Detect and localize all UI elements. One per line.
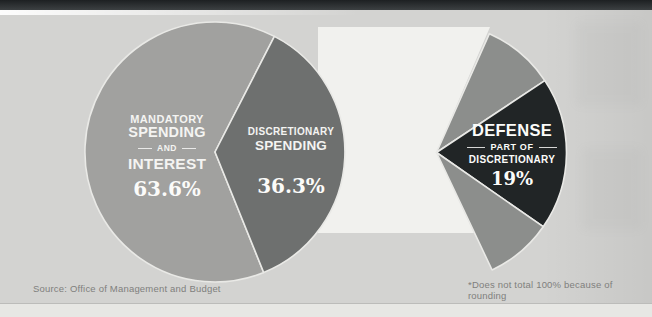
defense-line2: PART OF (442, 142, 582, 152)
defense-label-block: DEFENSE PART OF DISCRETIONARY 19% (442, 121, 582, 188)
mandatory-line3: AND (92, 144, 242, 153)
discretionary-label-block: DISCRETIONARY SPENDING 36.3% (221, 126, 361, 196)
defense-line3: DISCRETIONARY (442, 154, 582, 165)
mandatory-line4: INTEREST (92, 156, 242, 172)
mandatory-percent: 63.6% (92, 179, 242, 199)
rule-line (539, 147, 557, 148)
mandatory-label-block: MANDATORY SPENDING AND INTEREST 63.6% (92, 113, 242, 199)
rule-line (182, 148, 196, 149)
rule-line (467, 147, 485, 148)
rule-line (138, 148, 152, 149)
source-note: Source: Office of Management and Budget (33, 283, 221, 294)
defense-partof-text: PART OF (490, 142, 533, 152)
mandatory-line2: SPENDING (92, 125, 242, 140)
defense-percent: 19% (442, 170, 582, 188)
rounding-footnote: *Does not total 100% because of rounding (468, 279, 652, 301)
mandatory-and-text: AND (157, 144, 177, 153)
discretionary-line2: SPENDING (221, 138, 361, 153)
discretionary-percent: 36.3% (221, 176, 361, 196)
defense-line1: DEFENSE (442, 121, 582, 139)
budget-figure-scan: MANDATORY SPENDING AND INTEREST 63.6% DI… (0, 0, 652, 317)
discretionary-line1: DISCRETIONARY (221, 126, 361, 138)
